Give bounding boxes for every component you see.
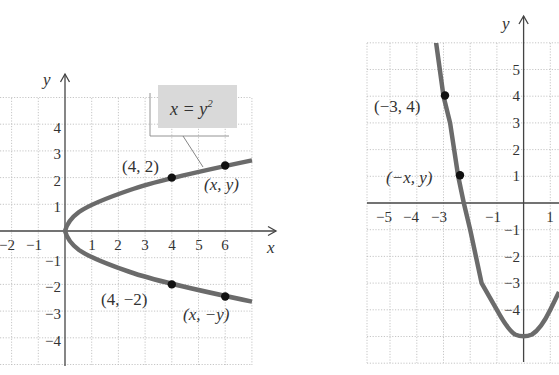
svg-text:1: 1: [54, 199, 62, 215]
point-label-neg3-4: (−3, 4): [374, 97, 420, 116]
svg-text:−3: −3: [504, 275, 520, 291]
svg-text:−4: −4: [504, 302, 520, 318]
svg-text:−3: −3: [431, 209, 447, 225]
svg-text:3: 3: [141, 237, 149, 253]
equation-label: x = y2: [169, 97, 213, 119]
svg-text:5: 5: [513, 62, 521, 78]
svg-text:4: 4: [513, 88, 521, 104]
svg-text:−1: −1: [485, 209, 501, 225]
left-chart: x = y2 (4, 2) (x, y) (4, −2) (x, −y) y x…: [0, 70, 276, 366]
svg-text:1: 1: [513, 168, 521, 184]
right-chart: (−3, 4) (−x, y) y −5 −4 −3 −1 1 5 4 3 2 …: [367, 14, 559, 363]
svg-text:2: 2: [54, 173, 62, 189]
svg-text:2: 2: [513, 142, 521, 158]
svg-text:−1: −1: [504, 222, 520, 238]
svg-text:−2: −2: [0, 237, 15, 253]
left-x-ticks: −2 −1 1 2 3 4 5 6: [0, 237, 229, 253]
svg-text:5: 5: [195, 237, 203, 253]
point-x-negy: [221, 292, 229, 300]
point-label-4-neg2: (4, −2): [101, 290, 147, 309]
figure: x = y2 (4, 2) (x, y) (4, −2) (x, −y) y x…: [0, 0, 559, 375]
svg-text:2: 2: [114, 237, 122, 253]
point-label-x-y: (x, y): [204, 175, 239, 194]
svg-text:−2: −2: [504, 249, 520, 265]
svg-text:−4: −4: [403, 209, 419, 225]
point-neg3-4: [441, 91, 449, 99]
svg-text:6: 6: [221, 237, 229, 253]
point-label-4-2: (4, 2): [122, 157, 159, 176]
svg-text:−1: −1: [45, 253, 61, 269]
svg-text:3: 3: [513, 115, 521, 131]
point-label-negx-y: (−x, y): [386, 168, 433, 187]
svg-text:4: 4: [168, 237, 176, 253]
svg-text:−5: −5: [376, 209, 392, 225]
point-label-x-negy: (x, −y): [183, 305, 230, 324]
point-4-2: [168, 173, 176, 181]
left-x-axis-label: x: [266, 238, 275, 257]
point-x-y: [221, 161, 229, 169]
svg-text:4: 4: [54, 120, 62, 136]
svg-text:3: 3: [54, 146, 62, 162]
svg-text:−3: −3: [45, 306, 61, 322]
svg-text:1: 1: [88, 237, 96, 253]
left-y-axis-label: y: [41, 70, 51, 89]
point-4-neg2: [168, 280, 176, 288]
equation-leader-line: [183, 136, 203, 167]
svg-text:−2: −2: [45, 279, 61, 295]
right-y-ticks: 5 4 3 2 1 −1 −2 −3 −4: [504, 62, 520, 318]
svg-text:−4: −4: [45, 333, 61, 349]
svg-text:−1: −1: [26, 237, 42, 253]
left-y-ticks: 4 3 2 1 −1 −2 −3 −4: [45, 120, 61, 349]
svg-text:1: 1: [546, 209, 554, 225]
right-parabola-curve: [436, 42, 559, 336]
right-y-axis-label: y: [500, 14, 510, 33]
equation-annotation: x = y2: [150, 85, 237, 167]
point-negx-y: [456, 171, 464, 179]
